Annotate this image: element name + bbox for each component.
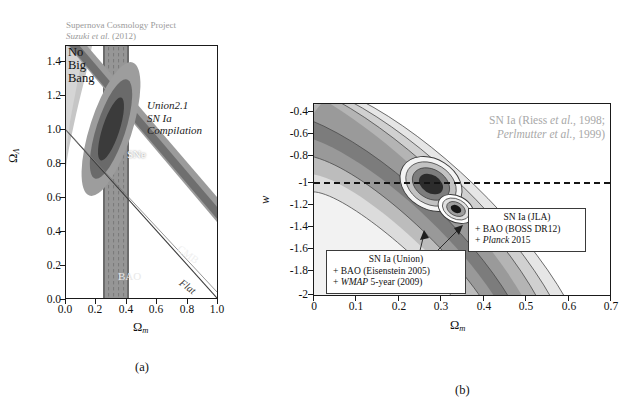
- ytickmark-b-4: [308, 204, 313, 205]
- xtickmark-a-4: [187, 299, 188, 304]
- ytick-b-7: -1.8: [278, 264, 308, 276]
- xtick-a-0: 0.0: [54, 303, 76, 315]
- xtick-a-5: 1.0: [206, 303, 228, 315]
- figure-root: Supernova Cosmology Project Suzuki et al…: [0, 0, 625, 412]
- xtickmark-a-1: [95, 299, 96, 304]
- xtick-a-3: 0.6: [145, 303, 167, 315]
- xtick-a-4: 0.8: [176, 303, 198, 315]
- xtickmark-b-4: [483, 296, 484, 301]
- legend-box-union: SN Ia (Union) + BAO (Eisenstein 2005) + …: [326, 250, 466, 294]
- ytickmark-b-0: [308, 111, 313, 112]
- ytick-b-8: -2: [278, 288, 308, 300]
- legend-union-line-3: + WMAP 5-year (2009): [333, 277, 459, 289]
- xtick-b-3: 0.3: [430, 300, 452, 312]
- ytick-b-3: -1: [278, 176, 308, 188]
- ytickmark-a-7: [60, 61, 65, 62]
- no-big-bang-line-2: Bang: [68, 71, 94, 85]
- credit-line-2-italic: Suzuki et al.: [66, 31, 110, 41]
- panel-b-yaxis-label: w: [258, 196, 273, 204]
- xtick-b-4: 0.4: [473, 300, 495, 312]
- ytick-b-4: -1.2: [278, 198, 308, 210]
- xtick-b-0: 0: [303, 300, 325, 312]
- ytickmark-b-5: [308, 226, 313, 227]
- ytick-b-5: -1.4: [278, 220, 308, 232]
- xtick-a-1: 0.2: [84, 303, 106, 315]
- reference-line-w-equals-minus-one: [314, 182, 610, 184]
- xtickmark-a-2: [126, 299, 127, 304]
- ytickmark-a-4: [60, 163, 65, 164]
- xtickmark-b-2: [398, 296, 399, 301]
- compilation-line-1: Union2.1 SN Ia: [147, 99, 188, 124]
- ytick-a-1: 0.2: [33, 259, 61, 271]
- ytick-a-5: 1.0: [33, 123, 61, 135]
- xtick-b-5: 0.5: [515, 300, 537, 312]
- legend-box-jla: SN Ia (JLA) + BAO (BOSS DR12) + Planck 2…: [468, 208, 586, 252]
- label-no-big-bang: No Big Bang: [68, 46, 94, 85]
- credit-line-1: Supernova Cosmology Project: [66, 20, 176, 30]
- label-bao: BAO: [118, 270, 141, 282]
- xaxis-a-subscript: m: [142, 325, 148, 335]
- ytick-b-6: -1.6: [278, 242, 308, 254]
- ytick-a-7: 1.4: [33, 55, 61, 67]
- legend-union-line-1: SN Ia (Union): [333, 254, 459, 266]
- ytickmark-b-8: [308, 294, 313, 295]
- xtickmark-a-3: [156, 299, 157, 304]
- xtickmark-a-5: [217, 299, 218, 304]
- xtick-b-2: 0.2: [388, 300, 410, 312]
- xtick-b-7: 0.7: [600, 300, 622, 312]
- xtick-a-2: 0.4: [115, 303, 137, 315]
- xtickmark-b-0: [313, 296, 314, 301]
- ytick-a-4: 0.8: [33, 157, 61, 169]
- ytick-b-2: -0.8: [278, 149, 308, 161]
- xtickmark-b-6: [568, 296, 569, 301]
- label-union-compilation: Union2.1 SN Ia Compilation: [147, 99, 202, 137]
- xtickmark-a-0: [65, 299, 66, 304]
- xtickmark-b-3: [440, 296, 441, 301]
- xtickmark-b-5: [525, 296, 526, 301]
- legend-union-line-2: + BAO (Eisenstein 2005): [333, 266, 459, 278]
- ytickmark-a-2: [60, 231, 65, 232]
- panel-b-xaxis-label: Ωm: [450, 318, 465, 333]
- sn-ann-l1-pre: SN Ia (Riess: [489, 114, 550, 126]
- sn-ann-l2-ital: Perlmutter et al.: [497, 128, 573, 140]
- panel-a-credit: Supernova Cosmology Project Suzuki et al…: [66, 20, 176, 41]
- legend-jla-line-3: + Planck 2015: [475, 235, 579, 247]
- xtickmark-b-7: [610, 296, 611, 301]
- ytickmark-a-5: [60, 129, 65, 130]
- ytickmark-b-3: [308, 182, 313, 183]
- ytickmark-b-2: [308, 155, 313, 156]
- yaxis-a-symbol: Ω: [6, 154, 20, 163]
- sn-ann-l1-post: , 1998;: [573, 114, 605, 126]
- legend-jla-l3-ital: Planck: [483, 235, 509, 245]
- compilation-line-2: Compilation: [147, 124, 202, 136]
- ytickmark-a-6: [60, 95, 65, 96]
- xtick-b-6: 0.6: [558, 300, 580, 312]
- xaxis-b-symbol: Ω: [450, 318, 459, 332]
- ytick-b-0: -0.4: [278, 105, 308, 117]
- ytickmark-a-3: [60, 197, 65, 198]
- annotation-sn-ia-riess: SN Ia (Riess et al., 1998; Perlmutter et…: [400, 113, 605, 141]
- sn-ann-l1-ital: et al.: [550, 114, 573, 126]
- panel-a-xaxis-label: Ωm: [133, 320, 148, 335]
- ytick-a-6: 1.2: [33, 89, 61, 101]
- xaxis-a-symbol: Ω: [133, 320, 142, 334]
- no-big-bang-line-1: No Big: [68, 45, 86, 72]
- legend-union-l3-ital: WMAP: [341, 277, 368, 287]
- legend-jla-line-2: + BAO (BOSS DR12): [475, 224, 579, 236]
- yaxis-a-subscript: Λ: [11, 149, 21, 154]
- xtick-b-1: 0.1: [345, 300, 367, 312]
- ytick-a-3: 0.6: [33, 191, 61, 203]
- panel-a-caption: (a): [135, 360, 149, 375]
- ytickmark-b-7: [308, 270, 313, 271]
- ytickmark-b-6: [308, 248, 313, 249]
- panel-b-caption: (b): [455, 383, 470, 398]
- legend-union-l3-pre: +: [333, 277, 341, 287]
- panel-a-yaxis-label: ΩΛ: [6, 149, 21, 163]
- legend-union-l3-post: 5-year (2009): [368, 277, 422, 287]
- xtickmark-b-1: [355, 296, 356, 301]
- label-sne: SNe: [127, 148, 146, 160]
- ytick-a-2: 0.4: [33, 225, 61, 237]
- xaxis-b-subscript: m: [459, 323, 465, 333]
- ytick-b-1: -0.6: [278, 127, 308, 139]
- credit-line-2-rest: (2012): [110, 31, 136, 41]
